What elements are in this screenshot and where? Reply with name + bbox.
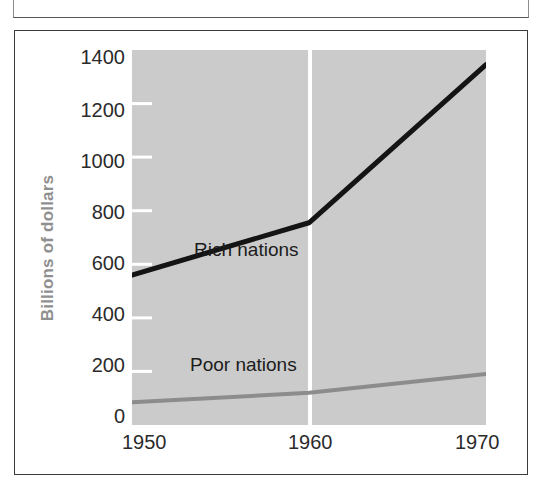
x-tick-1970: 1970 [455,432,500,452]
y-axis-title: Billions of dollars [38,138,58,358]
x-tick-1960: 1960 [288,432,333,452]
y-tick-400: 400 [55,304,125,324]
series-label-rich: Rich nations [194,240,299,259]
y-tick-600: 600 [55,253,125,273]
y-tick-marks [132,104,152,372]
y-tick-1400: 1400 [55,47,125,67]
chart-page: 1400 1200 1000 800 600 400 200 0 Billion… [0,0,541,493]
y-tick-200: 200 [55,355,125,375]
y-tick-800: 800 [55,202,125,222]
y-tick-0: 0 [55,406,125,426]
y-axis-tick-labels: 1400 1200 1000 800 600 400 200 0 [55,0,125,493]
plot-graphics [132,50,486,425]
x-tick-1950: 1950 [122,432,167,452]
series-label-poor: Poor nations [190,355,297,374]
y-tick-1000: 1000 [55,151,125,171]
plot-area: Rich nations Poor nations [132,50,486,425]
y-tick-1200: 1200 [55,100,125,120]
